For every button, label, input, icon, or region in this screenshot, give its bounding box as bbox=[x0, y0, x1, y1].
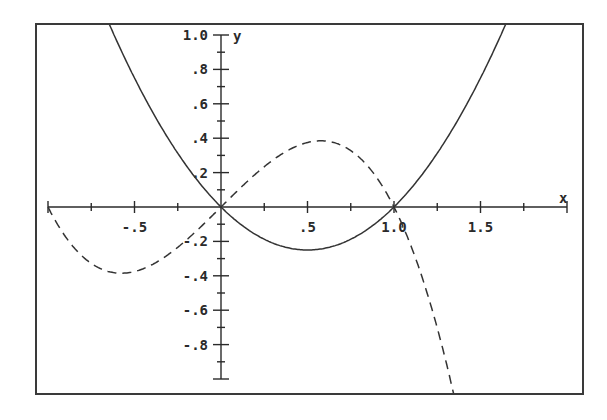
y-tick-label: -.2 bbox=[183, 233, 208, 249]
y-axis-label: y bbox=[233, 28, 242, 44]
plot-frame bbox=[36, 24, 583, 394]
y-tick-label: -.4 bbox=[183, 268, 208, 284]
y-tick-label: .2 bbox=[191, 165, 208, 181]
y-tick-label: .4 bbox=[191, 130, 208, 146]
x-tick-label: 1.5 bbox=[468, 219, 493, 235]
curves bbox=[48, 2, 515, 405]
x-axis-label: x bbox=[559, 190, 568, 206]
x-tick-label: -.5 bbox=[122, 219, 147, 235]
y-tick-label: -.6 bbox=[183, 302, 208, 318]
x-tick-label: 1.0 bbox=[381, 219, 406, 235]
y-tick-label: .6 bbox=[191, 96, 208, 112]
function-plot: -.5.51.01.51.0.8.6.4.2-.2-.4-.6-.8 x y bbox=[0, 0, 607, 420]
axes: -.5.51.01.51.0.8.6.4.2-.2-.4-.6-.8 bbox=[48, 27, 567, 379]
y-tick-label: .8 bbox=[191, 61, 208, 77]
y-tick-label: -.8 bbox=[183, 337, 208, 353]
cubic-curve-dashed bbox=[48, 141, 456, 406]
x-tick-label: .5 bbox=[299, 219, 316, 235]
y-tick-label: 1.0 bbox=[183, 27, 208, 43]
